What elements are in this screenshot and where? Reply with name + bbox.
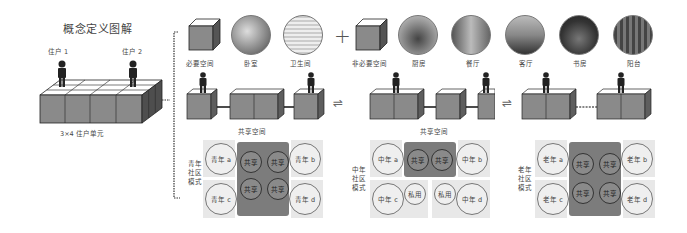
elderly-mode-label: 老年 社区 模式 <box>518 166 532 193</box>
kitchen-photo <box>398 15 438 55</box>
study-photo <box>559 15 599 55</box>
shared-space-label-2: 共享空间 <box>420 126 448 136</box>
shared-circle: 共享 <box>267 178 289 200</box>
shared-circle: 共享 <box>431 149 453 171</box>
optional-space-cube <box>354 18 388 52</box>
shared-space-label-1: 共享空间 <box>238 126 266 136</box>
shared-circle: 共享 <box>599 153 621 175</box>
shared-circle: 共享 <box>240 151 262 173</box>
shared-circle: 共享 <box>572 182 594 204</box>
unit-caption: 3×4 住户单元 <box>60 128 104 138</box>
plus-icon: + <box>334 24 351 48</box>
living-room-photo <box>505 15 545 55</box>
shared-circle: 共享 <box>240 178 262 200</box>
shared-circle: 共享 <box>572 153 594 175</box>
resident-circle: 中年 c <box>372 183 404 215</box>
resident-circle: 老年 a <box>537 143 569 175</box>
swap-arrows-icon: ⇌ <box>502 96 512 110</box>
mode-label-line: 社区 <box>352 175 366 184</box>
resident-circle: 老年 b <box>621 143 653 175</box>
mode-label-line: 中年 <box>352 166 366 175</box>
shared-circle: 共享 <box>267 151 289 173</box>
resident-circle: 青年 d <box>289 183 321 215</box>
dining-label: 餐厅 <box>466 58 480 68</box>
bedroom-label: 卧室 <box>244 58 258 68</box>
resident-circle: 青年 a <box>205 143 237 175</box>
mode-label-line: 模式 <box>518 184 532 193</box>
shared-circle: 共享 <box>407 149 429 171</box>
resident-circle: 青年 b <box>289 143 321 175</box>
resident-circle: 中年 a <box>372 143 404 175</box>
mode-label-line: 青年 <box>188 160 202 169</box>
living-room-label: 客厅 <box>519 58 533 68</box>
unit-block-illustration <box>30 55 170 130</box>
diagram-title: 概念定义图解 <box>63 20 132 36</box>
study-label: 书房 <box>573 58 587 68</box>
swap-arrows-icon: ⇌ <box>333 96 343 110</box>
dining-photo <box>451 15 491 55</box>
bedroom-photo <box>231 15 271 55</box>
necessary-space-label: 必要空间 <box>186 58 214 68</box>
resident-circle: 青年 c <box>205 183 237 215</box>
mode-label-line: 社区 <box>518 175 532 184</box>
bathroom-label: 卫生间 <box>290 58 311 68</box>
balcony-label: 阳台 <box>627 58 641 68</box>
kitchen-label: 厨房 <box>412 58 426 68</box>
youth-community-panel: 青年 a 青年 b 青年 c 青年 d 共享 共享 共享 共享 <box>203 140 323 218</box>
balcony-photo <box>613 15 653 55</box>
private-circle: 私用 <box>404 183 426 205</box>
shared-circle: 共享 <box>599 182 621 204</box>
resident-circle: 老年 c <box>537 183 569 215</box>
mode-label-line: 社区 <box>188 169 202 178</box>
youth-mode-label: 青年 社区 模式 <box>188 160 202 187</box>
mode-label-line: 模式 <box>188 178 202 187</box>
necessary-space-cube <box>187 18 221 52</box>
middle-age-community-panel: 中年 a 中年 b 中年 c 中年 d 共享 共享 私用 私用 <box>370 140 490 218</box>
elderly-community-panel: 老年 a 老年 b 老年 c 老年 d 共享 共享 共享 共享 <box>535 140 655 218</box>
resident-circle: 中年 b <box>456 143 488 175</box>
mode-label-line: 模式 <box>352 184 366 193</box>
bathroom-photo <box>283 15 323 55</box>
middle-age-mode-label: 中年 社区 模式 <box>352 166 366 193</box>
private-circle: 私用 <box>434 183 456 205</box>
optional-space-label: 非必要空间 <box>352 58 387 68</box>
mode-label-line: 老年 <box>518 166 532 175</box>
resident-circle: 中年 d <box>456 183 488 215</box>
resident-circle: 老年 d <box>621 183 653 215</box>
